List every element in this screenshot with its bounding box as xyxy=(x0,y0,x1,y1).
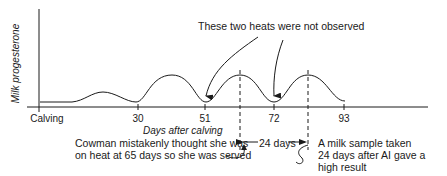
arrow-unobserved-heat-1 xyxy=(206,37,258,96)
tick-label-93: 93 xyxy=(338,113,349,124)
note-milk-sample-line1: A milk sample taken xyxy=(318,137,411,149)
tick-label-51: 51 xyxy=(199,113,210,124)
tick-label-72: 72 xyxy=(268,113,279,124)
arrow-unobserved-heat-2 xyxy=(274,40,283,96)
progesterone-curve xyxy=(40,75,345,102)
note-milk-sample-line2: 24 days after AI gave a xyxy=(318,149,425,161)
right-note-connector xyxy=(296,145,308,164)
note-milk-sample-line3: high result xyxy=(318,161,366,173)
tick-label-30: 30 xyxy=(132,113,143,124)
x-axis-label: Days after calving xyxy=(143,125,222,136)
note-mistaken-service-line1: Cowman mistakenly thought she was xyxy=(75,137,248,149)
y-axis-label: Milk progesterone xyxy=(10,14,21,114)
note-unobserved-heats: These two heats were not observed xyxy=(198,20,364,32)
note-interval: 24 days xyxy=(259,137,296,149)
note-mistaken-service-line2: on heat at 65 days so she was served xyxy=(75,149,251,161)
tick-label-calving: Calving xyxy=(30,113,63,124)
